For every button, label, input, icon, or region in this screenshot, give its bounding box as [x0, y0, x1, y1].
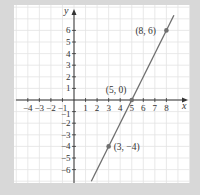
y-tick-label: 6: [66, 25, 71, 35]
y-tick-label: −6: [61, 165, 71, 175]
y-tick-label: −3: [61, 130, 71, 140]
x-tick-label: 4: [118, 103, 123, 113]
y-tick-label: −2: [61, 118, 71, 128]
y-tick-label: −5: [61, 153, 71, 163]
x-tick-label: 2: [95, 103, 100, 113]
x-tick-label: 5: [130, 103, 135, 113]
y-tick-label: 1: [66, 83, 71, 93]
data-point: [106, 144, 111, 149]
y-tick-label: 3: [66, 60, 71, 70]
x-tick-label: 1: [83, 103, 88, 113]
y-tick-label: 2: [66, 72, 71, 82]
x-tick-label: −4: [23, 103, 33, 113]
x-tick-label: 3: [106, 103, 111, 113]
plot-panel: [14, 5, 190, 183]
x-tick-label: 8: [164, 103, 169, 113]
point-label: (3, −4): [114, 142, 140, 153]
coordinate-plane: −4−3−2−112345678−6−5−4−3−2−1123456 (8, 6…: [0, 0, 200, 195]
y-tick-label: 5: [66, 37, 71, 47]
x-tick-label: 6: [141, 103, 146, 113]
data-point: [164, 28, 169, 33]
x-axis-label: x: [181, 100, 187, 111]
y-tick-label: −4: [61, 141, 71, 151]
x-tick-label: −3: [35, 103, 45, 113]
y-axis-label: y: [63, 5, 69, 16]
data-point: [129, 98, 134, 103]
y-tick-label: −1: [61, 109, 71, 119]
point-label: (8, 6): [135, 26, 156, 37]
y-tick-label: 4: [66, 49, 71, 59]
x-tick-label: 7: [153, 103, 158, 113]
x-tick-label: −2: [46, 103, 56, 113]
point-label: (5, 0): [106, 85, 127, 96]
